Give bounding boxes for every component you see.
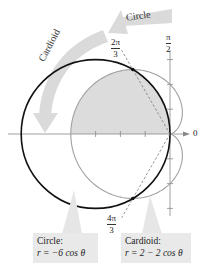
label-zero: 0: [193, 129, 198, 138]
label-pi-over-2: π 2: [166, 33, 171, 54]
label-2pi-over-3: 2π 3: [111, 38, 120, 59]
intersection-point-lower: [131, 197, 135, 201]
label-4pi-over-3: 4π 3: [107, 214, 116, 235]
shaded-region: [71, 70, 170, 134]
cardioid-callout-equation: r = 2 − 2 cos θ: [125, 248, 187, 260]
cardioid-arrow-head: [33, 113, 58, 133]
label-2pi-num: 2π: [111, 38, 120, 47]
circle-callout-pointer: [62, 190, 82, 234]
intersection-point-upper: [131, 68, 135, 72]
label-pi-num: π: [166, 33, 171, 42]
polar-axis-arrowhead: [183, 132, 190, 137]
circle-callout-equation: r = −6 cos θ: [37, 248, 94, 260]
ray-4pi-3: [122, 134, 170, 218]
cardioid-callout-title: Cardioid:: [125, 236, 187, 248]
circle-callout: Circle: r = −6 cos θ: [33, 233, 98, 263]
label-pi-den: 2: [166, 45, 171, 54]
label-4pi-den: 3: [109, 226, 114, 235]
cardioid-callout-pointer: [142, 196, 162, 234]
cardioid-callout: Cardioid: r = 2 − 2 cos θ: [121, 233, 191, 263]
circle-callout-title: Circle:: [37, 236, 94, 248]
label-4pi-num: 4π: [107, 214, 116, 223]
label-2pi-den: 3: [113, 50, 118, 59]
